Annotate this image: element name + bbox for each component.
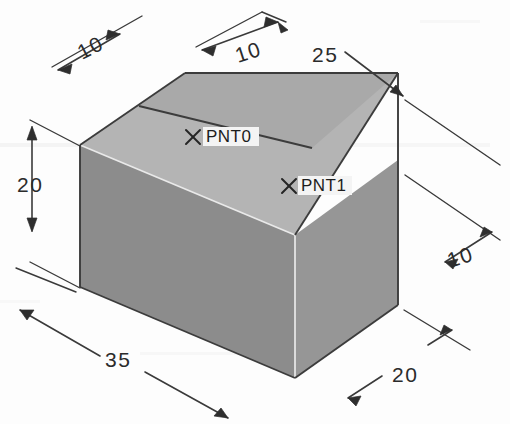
drawing-canvas: 10 10 25 20 bbox=[0, 0, 510, 424]
dimension-label-20-left: 20 bbox=[17, 173, 43, 196]
dimension-label-20-bottom-right: 20 bbox=[392, 363, 418, 386]
arrow-head-icon bbox=[214, 408, 228, 418]
arrow-head-icon bbox=[27, 126, 37, 140]
dimension-label-10-right: 10 bbox=[444, 242, 476, 272]
pnt0-label: PNT0 bbox=[206, 127, 251, 146]
dimension-10-right: 10 bbox=[405, 100, 500, 272]
pnt1-label: PNT1 bbox=[301, 176, 346, 195]
isometric-drawing: 10 10 25 20 bbox=[0, 0, 510, 424]
dimension-label-10-top-mid: 10 bbox=[232, 37, 264, 67]
arrow-head-icon bbox=[348, 396, 361, 406]
arrow-head-icon bbox=[27, 218, 37, 232]
arrow-head-icon bbox=[278, 22, 288, 33]
dimension-label-35-bottom: 35 bbox=[105, 348, 131, 371]
block-solid bbox=[80, 73, 398, 378]
arrow-head-icon bbox=[20, 310, 34, 320]
dimension-label-25-top-right: 25 bbox=[312, 43, 338, 66]
dimension-10-top-left: 10 bbox=[52, 16, 142, 74]
dimension-10-top-mid: 10 bbox=[196, 12, 278, 67]
